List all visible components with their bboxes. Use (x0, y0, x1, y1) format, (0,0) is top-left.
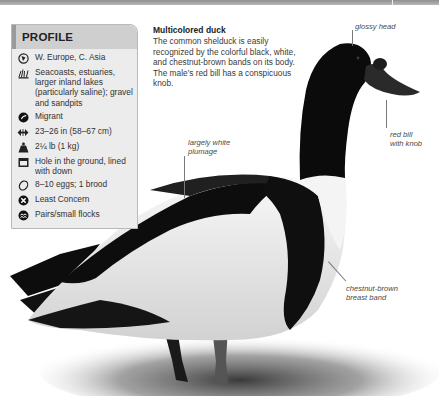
annotation-glossy-head-line (352, 30, 353, 46)
egg-icon (17, 180, 29, 191)
migration-arrow-icon (17, 112, 29, 123)
annotation-glossy-head: glossy head (355, 22, 396, 31)
annotation-red-bill-line1: red bill (390, 130, 422, 139)
profile-status-text: Least Concern (35, 194, 89, 204)
annotation-white-plumage: largely white plumage (188, 138, 230, 156)
weight-icon (17, 142, 29, 153)
profile-item-length: 23–26 in (58–67 cm) (17, 126, 133, 138)
annotation-white-plumage-line1: largely white (188, 138, 230, 147)
profile-item-weight: 2¼ lb (1 kg) (17, 141, 133, 153)
profile-box: PROFILE W. Europe, C. Asia Seacoasts, es… (11, 24, 138, 229)
globe-icon (17, 53, 29, 64)
profile-nest-text: Hole in the ground, lined with down (35, 156, 133, 176)
profile-item-migration: Migrant (17, 111, 133, 123)
nest-icon (17, 157, 29, 168)
profile-item-social: Pairs/small flocks (17, 209, 133, 221)
annotation-breast-band-line1: chestnut-brown (346, 284, 398, 293)
profile-eggs-text: 8–10 eggs; 1 brood (35, 179, 107, 189)
profile-header: PROFILE (12, 25, 137, 49)
flock-icon (17, 210, 29, 221)
annotation-red-bill-line (386, 100, 387, 128)
annotation-breast-band-line2: breast band (346, 293, 398, 302)
annotation-breast-band: chestnut-brown breast band (346, 284, 398, 302)
profile-item-eggs: 8–10 eggs; 1 brood (17, 179, 133, 191)
profile-length-text: 23–26 in (58–67 cm) (35, 126, 112, 136)
profile-range-text: W. Europe, C. Asia (35, 52, 105, 62)
caption-body: The common shelduck is easily recognized… (153, 36, 303, 89)
habitat-reeds-icon (17, 68, 29, 79)
profile-title: PROFILE (22, 31, 73, 43)
profile-migration-text: Migrant (35, 111, 63, 121)
annotation-red-bill-line2: with knob (390, 139, 422, 148)
profile-list: W. Europe, C. Asia Seacoasts, estuaries,… (12, 49, 137, 221)
conservation-status-icon (17, 195, 29, 206)
profile-social-text: Pairs/small flocks (35, 209, 100, 219)
annotation-red-bill: red bill with knob (390, 130, 422, 148)
profile-weight-text: 2¼ lb (1 kg) (35, 141, 79, 151)
profile-habitat-text: Seacoasts, estuaries, larger inland lake… (35, 67, 133, 108)
profile-item-range: W. Europe, C. Asia (17, 52, 133, 64)
length-arrows-icon (17, 127, 29, 138)
caption-title: Multicolored duck (153, 25, 303, 36)
profile-item-habitat: Seacoasts, estuaries, larger inland lake… (17, 67, 133, 108)
annotation-white-plumage-line2: plumage (188, 147, 230, 156)
caption-block: Multicolored duck The common shelduck is… (153, 25, 303, 89)
profile-item-status: Least Concern (17, 194, 133, 206)
annotation-white-plumage-line (184, 156, 185, 198)
profile-item-nest: Hole in the ground, lined with down (17, 156, 133, 176)
